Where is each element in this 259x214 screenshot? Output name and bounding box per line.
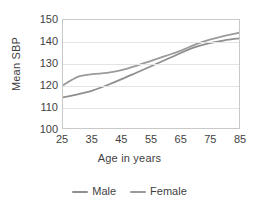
- gridline: [63, 108, 239, 109]
- x-tick-label: 65: [168, 134, 194, 145]
- x-tick-label: 25: [49, 134, 75, 145]
- series-line-female: [63, 33, 239, 85]
- legend-line-icon: [72, 191, 88, 193]
- gridline: [63, 86, 239, 87]
- y-tick-label: 110: [28, 102, 58, 113]
- y-tick-label: 140: [28, 36, 58, 47]
- y-axis-tick-labels: 100110120130140150: [28, 19, 58, 129]
- x-tick-label: 45: [108, 134, 134, 145]
- y-axis-title: Mean SBP: [10, 24, 22, 104]
- plot-area: [62, 19, 240, 129]
- legend-label: Male: [92, 186, 116, 197]
- y-tick-label: 100: [28, 124, 58, 135]
- y-tick-label: 150: [28, 14, 58, 25]
- x-tick-label: 55: [138, 134, 164, 145]
- x-tick-label: 75: [197, 134, 223, 145]
- series-line-male: [63, 38, 239, 97]
- plot-lines: [63, 20, 239, 128]
- legend-item-male[interactable]: Male: [72, 186, 116, 197]
- x-axis-title: Age in years: [0, 152, 259, 164]
- chart-legend: MaleFemale: [0, 186, 259, 197]
- x-tick-label: 35: [79, 134, 105, 145]
- x-axis-tick-labels: 25354555657585: [62, 134, 240, 148]
- gridline: [63, 42, 239, 43]
- legend-label: Female: [150, 186, 187, 197]
- legend-item-female[interactable]: Female: [130, 186, 187, 197]
- y-tick-label: 120: [28, 80, 58, 91]
- line-chart: Mean SBP 100110120130140150 253545556575…: [0, 0, 259, 214]
- gridline: [63, 64, 239, 65]
- legend-line-icon: [130, 191, 146, 193]
- x-tick-label: 85: [227, 134, 253, 145]
- y-tick-label: 130: [28, 58, 58, 69]
